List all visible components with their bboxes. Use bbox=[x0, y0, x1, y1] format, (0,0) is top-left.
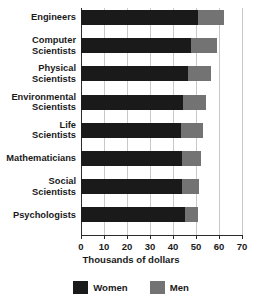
x-tick-60 bbox=[219, 235, 220, 239]
gridline-70 bbox=[242, 8, 243, 235]
legend-item: Women bbox=[73, 281, 127, 294]
x-tick-label: 0 bbox=[69, 241, 93, 252]
bar-segment-men bbox=[182, 179, 199, 194]
bar-segment-women bbox=[81, 123, 181, 138]
x-tick-label: 70 bbox=[230, 241, 254, 252]
category-label: Environmental Scientists bbox=[0, 92, 76, 113]
chart-legend: WomenMen bbox=[0, 281, 262, 294]
x-tick-10 bbox=[104, 235, 105, 239]
bar-segment-women bbox=[81, 207, 185, 222]
legend-label: Men bbox=[170, 282, 189, 293]
x-tick-label: 60 bbox=[207, 241, 231, 252]
bar-segment-men bbox=[182, 151, 200, 166]
x-axis-line bbox=[81, 235, 242, 236]
legend-swatch-men bbox=[150, 281, 165, 294]
bar-row bbox=[81, 66, 242, 81]
bar-segment-men bbox=[198, 10, 223, 25]
legend-swatch-women bbox=[73, 281, 88, 294]
x-tick-70 bbox=[242, 235, 243, 239]
x-tick-label: 20 bbox=[115, 241, 139, 252]
bar-segment-women bbox=[81, 66, 188, 81]
bar-segment-women bbox=[81, 38, 191, 53]
x-tick-0 bbox=[81, 235, 82, 239]
bar-row bbox=[81, 151, 242, 166]
bar-segment-women bbox=[81, 95, 183, 110]
x-tick-20 bbox=[127, 235, 128, 239]
x-tick-label: 50 bbox=[184, 241, 208, 252]
bar-segment-men bbox=[183, 95, 206, 110]
x-axis-title: Thousands of dollars bbox=[0, 254, 262, 265]
bar-series-group bbox=[81, 8, 242, 235]
bar-segment-men bbox=[185, 207, 199, 222]
bar-row bbox=[81, 38, 242, 53]
category-label: Engineers bbox=[0, 12, 76, 23]
bar-row bbox=[81, 123, 242, 138]
plot-area bbox=[81, 8, 242, 235]
category-label: Mathematicians bbox=[0, 153, 76, 164]
legend-label: Women bbox=[93, 282, 127, 293]
x-tick-30 bbox=[150, 235, 151, 239]
legend-item: Men bbox=[150, 281, 189, 294]
bar-segment-men bbox=[188, 66, 211, 81]
bar-segment-women bbox=[81, 151, 182, 166]
category-axis-labels: EngineersComputer ScientistsPhysical Sci… bbox=[0, 8, 76, 235]
bar-row bbox=[81, 207, 242, 222]
category-label: Social Scientists bbox=[0, 176, 76, 197]
category-label: Computer Scientists bbox=[0, 35, 76, 56]
bar-segment-women bbox=[81, 179, 182, 194]
stacked-bar-chart: EngineersComputer ScientistsPhysical Sci… bbox=[0, 0, 262, 308]
bar-segment-men bbox=[181, 123, 203, 138]
category-label: Psychologists bbox=[0, 210, 76, 221]
bar-row bbox=[81, 179, 242, 194]
category-label: Life Scientists bbox=[0, 120, 76, 141]
x-tick-40 bbox=[173, 235, 174, 239]
x-tick-label: 10 bbox=[92, 241, 116, 252]
bar-row bbox=[81, 95, 242, 110]
x-tick-50 bbox=[196, 235, 197, 239]
category-label: Physical Scientists bbox=[0, 63, 76, 84]
x-tick-label: 40 bbox=[161, 241, 185, 252]
bar-row bbox=[81, 10, 242, 25]
x-tick-label: 30 bbox=[138, 241, 162, 252]
bar-segment-men bbox=[191, 38, 216, 53]
bar-segment-women bbox=[81, 10, 198, 25]
